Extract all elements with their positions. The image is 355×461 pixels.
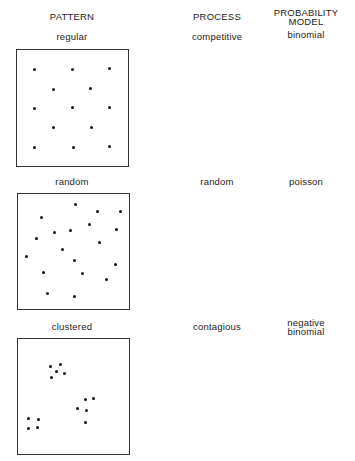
point-dot bbox=[98, 241, 101, 244]
point-dot bbox=[55, 370, 58, 373]
row3-process-label: contagious bbox=[175, 322, 259, 331]
point-dot bbox=[73, 259, 76, 262]
point-dot bbox=[74, 203, 77, 206]
header-model-line2: MODEL bbox=[264, 17, 348, 26]
point-dot bbox=[52, 88, 55, 91]
point-dot bbox=[92, 397, 95, 400]
point-dot bbox=[114, 263, 117, 266]
header-process: PROCESS bbox=[175, 12, 259, 21]
point-dot bbox=[119, 210, 122, 213]
point-dot bbox=[61, 248, 64, 251]
point-dot bbox=[108, 106, 111, 109]
point-dot bbox=[35, 237, 38, 240]
point-dot bbox=[33, 68, 36, 71]
row3-model-label-2: binomial bbox=[264, 327, 348, 336]
row3-pattern-label: clustered bbox=[30, 322, 114, 331]
point-dot bbox=[88, 223, 91, 226]
point-dot bbox=[84, 421, 87, 424]
point-dot bbox=[108, 67, 111, 70]
header-pattern: PATTERN bbox=[30, 12, 114, 21]
point-dot bbox=[72, 146, 75, 149]
point-dot bbox=[96, 210, 99, 213]
point-dot bbox=[59, 363, 62, 366]
point-dot bbox=[89, 87, 92, 90]
row2-process-label: random bbox=[175, 177, 259, 186]
point-dot bbox=[90, 126, 93, 129]
point-dot bbox=[105, 278, 108, 281]
point-dot bbox=[36, 426, 39, 429]
point-dot bbox=[84, 398, 87, 401]
clustered-pattern-box bbox=[17, 338, 130, 455]
point-dot bbox=[115, 228, 118, 231]
point-dot bbox=[53, 231, 56, 234]
point-dot bbox=[27, 417, 30, 420]
point-dot bbox=[71, 68, 74, 71]
row2-model-label: poisson bbox=[264, 177, 348, 186]
point-dot bbox=[49, 365, 52, 368]
point-dot bbox=[76, 407, 79, 410]
row1-pattern-label: regular bbox=[30, 32, 114, 41]
point-dot bbox=[50, 376, 53, 379]
point-dot bbox=[37, 418, 40, 421]
point-dot bbox=[108, 145, 111, 148]
point-dot bbox=[52, 126, 55, 129]
point-dot bbox=[40, 216, 43, 219]
point-dot bbox=[42, 271, 45, 274]
point-dot bbox=[46, 292, 49, 295]
row1-process-label: competitive bbox=[175, 32, 259, 41]
point-dot bbox=[69, 229, 72, 232]
row2-pattern-label: random bbox=[30, 177, 114, 186]
point-dot bbox=[63, 372, 66, 375]
point-dot bbox=[85, 409, 88, 412]
random-pattern-box bbox=[17, 193, 130, 310]
point-dot bbox=[27, 427, 30, 430]
point-dot bbox=[33, 146, 36, 149]
point-dot bbox=[81, 272, 84, 275]
point-dot bbox=[73, 295, 76, 298]
row1-model-label: binomial bbox=[264, 30, 348, 39]
point-dot bbox=[25, 255, 28, 258]
point-dot bbox=[71, 106, 74, 109]
point-dot bbox=[33, 107, 36, 110]
